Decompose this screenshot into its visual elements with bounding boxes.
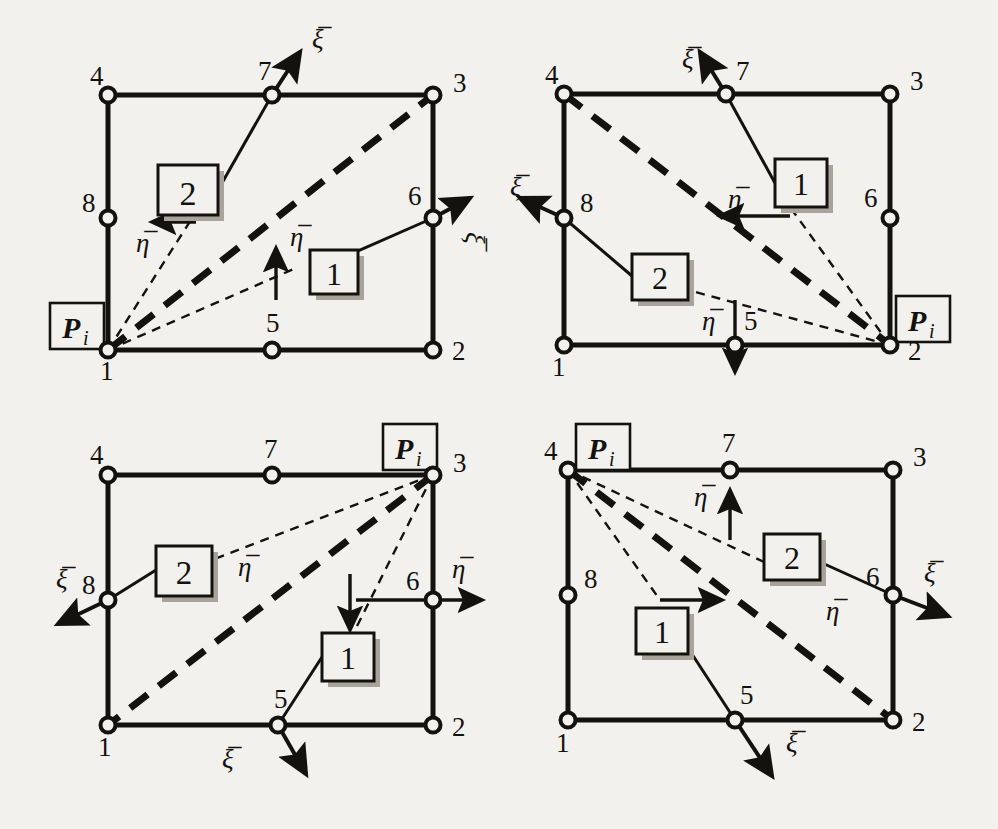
- node-3: [426, 468, 441, 483]
- node-label-5: 5: [740, 680, 754, 710]
- figure-background: [0, 0, 998, 829]
- pi-label-base: P: [61, 311, 81, 344]
- node-6: [883, 211, 898, 226]
- node-3: [883, 87, 898, 102]
- pi-marker: P i: [383, 424, 437, 470]
- box-1-label: 1: [340, 640, 356, 676]
- node-8: [561, 588, 576, 603]
- box-1: 1: [310, 250, 364, 300]
- node-label-4: 4: [545, 60, 559, 90]
- node-5: [728, 713, 743, 728]
- box-1: 1: [775, 159, 833, 213]
- pi-label-sub: i: [416, 448, 422, 470]
- node-label-7: 7: [736, 56, 750, 86]
- node-1: [561, 713, 576, 728]
- node-label-6: 6: [864, 183, 878, 213]
- node-label-8: 8: [82, 188, 96, 218]
- node-label-5: 5: [266, 308, 280, 338]
- node-1: [557, 338, 572, 353]
- pi-label-sub: i: [929, 320, 935, 342]
- node-7: [265, 468, 280, 483]
- pi-label-base: P: [587, 432, 607, 465]
- node-label-1: 1: [100, 356, 114, 386]
- node-8: [557, 211, 572, 226]
- node-label-1: 1: [556, 728, 570, 758]
- node-label-2: 2: [908, 336, 922, 366]
- node-label-5: 5: [744, 306, 758, 336]
- pi-label-sub: i: [609, 448, 615, 470]
- pi-label-base: P: [394, 432, 414, 465]
- element-node-coordinate-figure: 2 1 P i 4 7 3 8 6: [0, 0, 998, 829]
- node-label-8: 8: [82, 570, 96, 600]
- node-label-3: 3: [910, 66, 924, 96]
- node-3: [426, 88, 441, 103]
- box-1: 1: [636, 608, 694, 660]
- node-5: [271, 718, 286, 733]
- node-7: [265, 88, 280, 103]
- box-2: 2: [764, 534, 826, 586]
- node-label-8: 8: [580, 188, 594, 218]
- box-2: 2: [158, 165, 224, 221]
- node-label-6: 6: [866, 562, 880, 592]
- figure-root: 2 1 P i 4 7 3 8 6: [0, 0, 998, 829]
- node-label-2: 2: [452, 712, 466, 742]
- node-label-2: 2: [452, 336, 466, 366]
- box-2: 2: [632, 254, 694, 306]
- node-label-7: 7: [722, 428, 736, 458]
- node-8: [101, 211, 116, 226]
- node-4: [557, 87, 572, 102]
- box-2: 2: [156, 546, 218, 602]
- node-2: [426, 718, 441, 733]
- node-label-2: 2: [912, 707, 926, 737]
- pi-label-sub: i: [83, 327, 89, 349]
- node-label-4: 4: [90, 440, 104, 470]
- box-1-label: 1: [793, 166, 809, 202]
- node-label-3: 3: [453, 448, 467, 478]
- node-4: [561, 463, 576, 478]
- node-label-4: 4: [90, 61, 104, 91]
- node-label-1: 1: [552, 352, 566, 382]
- pi-marker: P i: [576, 424, 630, 470]
- node-2: [883, 338, 898, 353]
- node-7: [719, 87, 734, 102]
- node-label-6: 6: [408, 181, 422, 211]
- node-1: [101, 718, 116, 733]
- node-label-7: 7: [258, 56, 272, 86]
- pi-label-base: P: [907, 304, 927, 337]
- node-2: [886, 713, 901, 728]
- node-5: [728, 338, 743, 353]
- pi-marker: P i: [50, 303, 104, 349]
- node-8: [101, 593, 116, 608]
- node-label-1: 1: [98, 732, 112, 762]
- box-1-label: 1: [654, 614, 670, 650]
- box-2-label: 2: [180, 175, 197, 212]
- box-1: 1: [322, 633, 380, 687]
- box-2-label: 2: [652, 260, 668, 296]
- pi-marker: P i: [896, 296, 950, 342]
- node-3: [886, 463, 901, 478]
- node-label-7: 7: [264, 434, 278, 464]
- node-7: [723, 463, 738, 478]
- box-2-label: 2: [176, 555, 193, 591]
- box-1-label: 1: [326, 256, 342, 292]
- node-label-5: 5: [274, 684, 288, 714]
- node-label-3: 3: [453, 68, 467, 98]
- box-2-label: 2: [784, 540, 800, 576]
- node-label-4: 4: [544, 436, 558, 466]
- node-6: [886, 588, 901, 603]
- node-6: [426, 593, 441, 608]
- node-label-3: 3: [913, 442, 927, 472]
- node-6: [426, 211, 441, 226]
- node-2: [426, 343, 441, 358]
- node-5: [265, 343, 280, 358]
- node-label-6: 6: [406, 566, 420, 596]
- node-label-8: 8: [584, 564, 598, 594]
